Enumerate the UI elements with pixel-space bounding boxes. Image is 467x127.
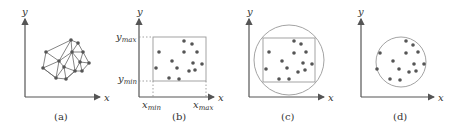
points bbox=[154, 39, 204, 81]
points bbox=[264, 39, 314, 81]
circumscribed-circle bbox=[254, 25, 324, 95]
x-max-label: xmax bbox=[193, 99, 213, 112]
figure: y x bbox=[0, 0, 467, 127]
y-axis-label: y bbox=[136, 6, 143, 17]
mesh-points bbox=[41, 38, 91, 81]
bounding-box bbox=[263, 38, 315, 82]
x-axis-label: x bbox=[104, 92, 110, 103]
y-axis-label: y bbox=[246, 6, 253, 17]
mesh-edges bbox=[43, 40, 89, 79]
caption-c: (c) bbox=[281, 111, 295, 122]
panel-a: y x bbox=[21, 6, 110, 122]
caption-b: (b) bbox=[172, 111, 186, 122]
y-min-label: ymin bbox=[117, 73, 138, 86]
x-axis-label: x bbox=[328, 92, 334, 103]
caption-d: (d) bbox=[393, 111, 407, 122]
panel-d: y x (d) bbox=[357, 6, 444, 122]
x-axis-label: x bbox=[438, 92, 444, 103]
x-min-label: xmin bbox=[142, 99, 162, 112]
y-max-label: ymax bbox=[115, 31, 136, 44]
panel-b: y x ymax ymin xmin xmax (b) bbox=[115, 6, 224, 122]
bounding-box bbox=[153, 37, 206, 81]
y-axis-label: y bbox=[357, 6, 364, 17]
y-axis-label: y bbox=[21, 6, 28, 17]
points bbox=[375, 39, 426, 82]
panel-c: y x (c) bbox=[246, 6, 334, 122]
x-axis-label: x bbox=[218, 92, 224, 103]
caption-a: (a) bbox=[54, 111, 68, 122]
